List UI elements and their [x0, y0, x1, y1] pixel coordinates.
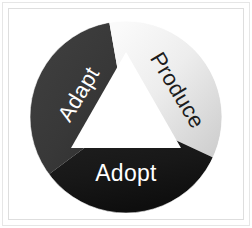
cycle-diagram-figure: Adapt Produce Adopt: [0, 0, 252, 228]
cycle-diagram-svg: Adapt Produce Adopt: [0, 0, 252, 228]
segment-adopt-label-group: Adopt: [95, 160, 157, 186]
diagram-canvas: Adapt Produce Adopt: [0, 0, 252, 228]
segment-adopt-label: Adopt: [95, 160, 157, 186]
